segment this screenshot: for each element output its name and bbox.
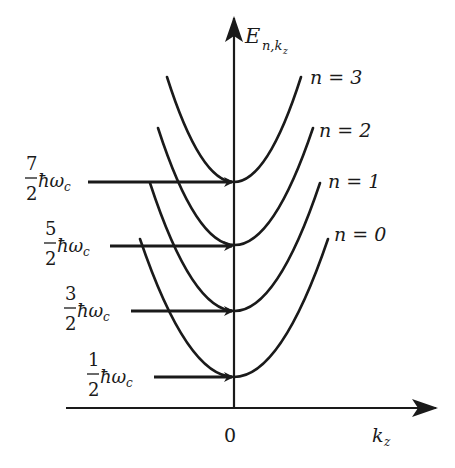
svg-text:5: 5 — [45, 218, 56, 239]
energy-label-3-2: 3 2 ħω c — [64, 283, 110, 334]
svg-text:c: c — [64, 180, 71, 194]
curve-label-n2: n = 2 — [319, 119, 371, 141]
x-origin-label: 0 — [224, 424, 236, 446]
landau-level-diagram: E n,k z 0 k z n = 3 n = 2 n = 1 n = 0 7 … — [0, 0, 455, 468]
svg-text:k: k — [372, 424, 384, 446]
energy-label-1-2: 1 2 ħω c — [87, 349, 133, 400]
energy-label-7-2: 7 2 ħω c — [25, 153, 71, 204]
energy-label-5-2: 5 2 ħω c — [44, 218, 90, 269]
svg-text:n,k: n,k — [262, 38, 283, 53]
svg-text:ħω: ħω — [57, 235, 84, 256]
svg-text:z: z — [383, 435, 391, 449]
curve-n2 — [158, 128, 313, 245]
svg-text:2: 2 — [26, 183, 37, 204]
svg-text:ħω: ħω — [38, 170, 65, 191]
svg-text:ħω: ħω — [77, 300, 104, 321]
svg-text:2: 2 — [88, 379, 99, 400]
svg-text:c: c — [103, 310, 110, 324]
svg-text:2: 2 — [45, 248, 56, 269]
x-axis-label: k z — [372, 424, 391, 449]
svg-text:c: c — [126, 376, 133, 390]
svg-text:c: c — [83, 245, 90, 259]
svg-text:ħω: ħω — [100, 366, 127, 387]
svg-text:3: 3 — [65, 283, 76, 304]
svg-text:7: 7 — [26, 153, 37, 174]
y-axis-label: E n,k z — [244, 24, 288, 56]
svg-text:2: 2 — [65, 313, 76, 334]
svg-text:1: 1 — [88, 349, 99, 370]
curve-label-n3: n = 3 — [310, 66, 362, 88]
curve-label-n0: n = 0 — [334, 223, 386, 245]
svg-text:z: z — [282, 46, 288, 56]
curve-label-n1: n = 1 — [328, 170, 380, 192]
svg-text:E: E — [244, 24, 260, 48]
